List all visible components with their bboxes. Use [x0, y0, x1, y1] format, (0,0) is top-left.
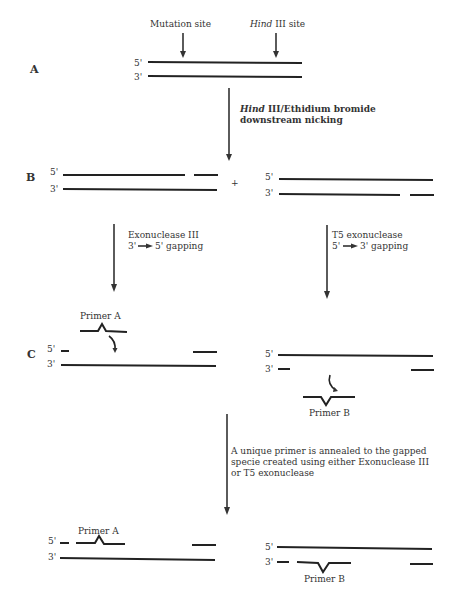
b-left-bottom-strand: [63, 189, 217, 190]
d-primer-b-label: Primer B: [304, 574, 345, 584]
d-primer-a-label: Primer A: [78, 526, 119, 536]
c-primer-b: [303, 397, 355, 405]
exonuclease-iii-label: Exonuclease III: [128, 230, 199, 240]
b-right-top-strand: [279, 179, 433, 180]
c-left-5prime-label: 5': [47, 344, 55, 354]
step-b-to-c-right: T5 exonuclease 5' 3' gapping: [324, 225, 408, 299]
hind-iii-site-label: Hind III site: [249, 19, 305, 29]
d-left-3prime-label: 3': [48, 552, 56, 562]
annealing-note-line1: A unique primer is annealed to the gappe…: [230, 446, 427, 456]
c-right-3prime-label: 3': [265, 364, 273, 374]
c-primer-a: [80, 324, 127, 332]
b-left-3prime-label: 3': [50, 184, 58, 194]
c-primer-b-curved-arrow-icon: [329, 375, 336, 390]
d-right-top-strand: [277, 547, 432, 549]
a-bottom-strand: [148, 76, 302, 77]
a-3prime-label: 3': [134, 72, 142, 82]
step-a: A Mutation site Hind III site 5' 3': [29, 19, 305, 82]
d-primer-b-annealed: [297, 562, 351, 572]
t5-direction-to: 3' gapping: [360, 241, 408, 251]
b-left-5prime-label: 5': [50, 167, 58, 177]
down-arrow-icon: [226, 88, 232, 161]
annealing-note-line2: specie created using either Exonuclease …: [231, 457, 429, 467]
c-left-3prime-label: 3': [47, 359, 55, 369]
mutagenesis-diagram: A Mutation site Hind III site 5' 3' Hind…: [0, 0, 459, 604]
b-right-5prime-label: 5': [265, 172, 273, 182]
d-right-5prime-label: 5': [265, 542, 273, 552]
plus-sign: +: [231, 178, 239, 188]
d-right-3prime-label: 3': [265, 557, 273, 567]
exo-iii-direction-from: 3': [128, 241, 136, 251]
t5-direction-from: 5': [332, 241, 340, 251]
annealing-note-line3: or T5 exonuclease: [231, 468, 314, 478]
d-left-bottom-strand: [60, 558, 215, 560]
down-arrow-icon: [324, 225, 330, 299]
down-arrow-icon: [224, 414, 230, 515]
c-primer-a-label: Primer A: [80, 311, 121, 321]
step-d: Primer A 5' 3' 5' 3' Primer B: [48, 526, 433, 584]
step-a-to-b: Hind III/Ethidium bromide downstream nic…: [226, 88, 376, 161]
nicking-hind-italic: Hind: [239, 104, 265, 114]
nicking-step-line2: downstream nicking: [240, 115, 343, 125]
t5-exonuclease-label: T5 exonuclease: [332, 230, 403, 240]
d-primer-a-annealed: [76, 536, 125, 544]
b-right-bottom-strand: [279, 194, 400, 195]
right-arrow-icon: [138, 244, 153, 249]
hind-iii-site-arrow-icon: [273, 33, 279, 58]
mutation-site-label: Mutation site: [150, 19, 211, 29]
c-primer-a-arrowhead-icon: [113, 348, 118, 353]
down-arrow-icon: [111, 224, 117, 292]
mutation-site-arrow-icon: [180, 33, 186, 58]
step-c-to-d: A unique primer is annealed to the gappe…: [224, 414, 429, 515]
c-primer-b-label: Primer B: [309, 408, 350, 418]
c-primer-a-curved-arrow-icon: [109, 336, 115, 350]
nicking-step-line1: Hind III/Ethidium bromide: [239, 104, 376, 114]
step-c-label: C: [27, 348, 36, 361]
step-b: B 5' 3' + 5' 3': [26, 167, 434, 198]
hind-italic: Hind: [249, 19, 273, 29]
c-right-5prime-label: 5': [265, 349, 273, 359]
c-right-top-strand: [278, 355, 433, 356]
step-a-label: A: [29, 63, 39, 76]
exo-iii-direction-to: 5' gapping: [155, 241, 203, 251]
step-c: C Primer A 5' 3' 5' 3' Primer B: [27, 311, 434, 418]
nicking-line1-rest: III/Ethidium bromide: [265, 104, 376, 114]
hind-rest: III site: [272, 19, 305, 29]
step-b-to-c-left: Exonuclease III 3' 5' gapping: [111, 224, 203, 292]
right-arrow-icon: [343, 244, 358, 249]
c-left-bottom-strand: [61, 365, 216, 366]
step-b-label: B: [26, 171, 35, 184]
a-top-strand: [148, 62, 302, 63]
d-left-5prime-label: 5': [48, 536, 56, 546]
b-right-3prime-label: 3': [265, 188, 273, 198]
a-5prime-label: 5': [134, 58, 142, 68]
